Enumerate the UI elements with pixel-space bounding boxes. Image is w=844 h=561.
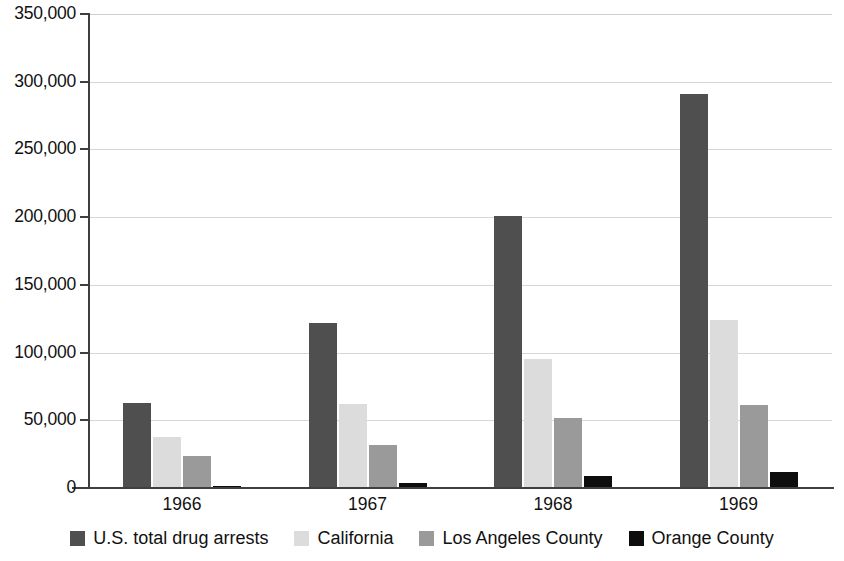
plot-area <box>90 14 832 488</box>
y-axis-tick <box>80 148 89 150</box>
y-axis-tick <box>80 487 89 489</box>
legend-swatch-icon <box>70 531 85 546</box>
legend-label: U.S. total drug arrests <box>93 528 268 548</box>
x-axis-label-1969: 1969 <box>680 494 798 514</box>
legend-swatch-icon <box>294 531 309 546</box>
gridline <box>90 82 832 83</box>
gridline <box>90 285 832 286</box>
bar-1966-2 <box>153 437 181 488</box>
y-axis-label: 150,000 <box>2 276 76 294</box>
x-axis-line <box>72 487 834 489</box>
x-axis-label-1966: 1966 <box>123 494 241 514</box>
gridline <box>90 217 832 218</box>
bar-1969-2 <box>710 320 738 488</box>
y-axis-label: 200,000 <box>2 208 76 226</box>
y-axis-label: 250,000 <box>2 140 76 158</box>
chart-legend: U.S. total drug arrestsCaliforniaLos Ang… <box>0 528 844 548</box>
legend-label: Los Angeles County <box>442 528 602 548</box>
gridline <box>90 14 832 15</box>
y-axis-tick <box>80 352 89 354</box>
legend-swatch-icon <box>629 531 644 546</box>
bar-1967-1 <box>309 323 337 488</box>
bar-chart: 050,000100,000150,000200,000250,000300,0… <box>0 0 844 561</box>
bar-1969-4 <box>770 472 798 488</box>
y-axis-tick <box>80 419 89 421</box>
bar-1969-3 <box>740 405 768 488</box>
y-axis-label: 50,000 <box>2 411 76 429</box>
legend-item-3: Los Angeles County <box>419 528 602 548</box>
y-axis-label: 300,000 <box>2 73 76 91</box>
legend-label: California <box>317 528 393 548</box>
y-axis-label: 350,000 <box>2 5 76 23</box>
bar-1968-2 <box>524 359 552 488</box>
bar-1967-3 <box>369 445 397 488</box>
legend-swatch-icon <box>419 531 434 546</box>
legend-item-1: U.S. total drug arrests <box>70 528 268 548</box>
legend-item-4: Orange County <box>629 528 774 548</box>
y-axis-tick <box>80 13 89 15</box>
bar-1967-2 <box>339 404 367 488</box>
y-axis-label: 100,000 <box>2 344 76 362</box>
bar-1966-1 <box>123 403 151 488</box>
gridline <box>90 149 832 150</box>
x-axis-label-1968: 1968 <box>494 494 612 514</box>
y-axis-label: 0 <box>2 479 76 497</box>
legend-label: Orange County <box>652 528 774 548</box>
y-axis-tick <box>80 81 89 83</box>
bar-1968-1 <box>494 216 522 488</box>
bar-1968-3 <box>554 418 582 488</box>
bar-1966-3 <box>183 456 211 488</box>
x-axis-label-1967: 1967 <box>309 494 427 514</box>
y-axis-tick <box>80 284 89 286</box>
bar-1969-1 <box>680 94 708 488</box>
y-axis-tick <box>80 216 89 218</box>
legend-item-2: California <box>294 528 393 548</box>
y-axis-line <box>88 13 90 489</box>
